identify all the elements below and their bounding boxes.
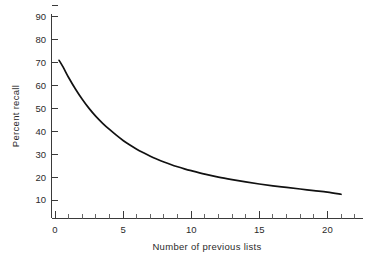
y-axis-title: Percent recall bbox=[10, 85, 21, 147]
y-tick-label-30: 30 bbox=[35, 149, 46, 160]
x-axis-tick-labels: 05101520 bbox=[52, 224, 332, 235]
y-axis-tick-labels: 102030405060708090 bbox=[35, 11, 46, 205]
x-tick-label-10: 10 bbox=[186, 224, 197, 235]
y-tick-label-40: 40 bbox=[35, 126, 46, 137]
x-tick-label-15: 15 bbox=[254, 224, 265, 235]
x-tick-label-5: 5 bbox=[120, 224, 125, 235]
y-tick-label-90: 90 bbox=[35, 11, 46, 22]
x-axis-title: Number of previous lists bbox=[152, 241, 261, 252]
y-tick-label-10: 10 bbox=[35, 194, 46, 205]
y-tick-label-60: 60 bbox=[35, 80, 46, 91]
x-axis-minor-ticks bbox=[69, 214, 355, 219]
y-tick-label-50: 50 bbox=[35, 103, 46, 114]
x-tick-label-0: 0 bbox=[52, 224, 57, 235]
y-tick-label-20: 20 bbox=[35, 172, 46, 183]
chart-plot-area: 102030405060708090 05101520 Number of pr… bbox=[0, 0, 374, 262]
y-tick-label-80: 80 bbox=[35, 34, 46, 45]
data-series-curve bbox=[59, 60, 341, 194]
x-tick-label-20: 20 bbox=[322, 224, 333, 235]
chart-figure: 102030405060708090 05101520 Number of pr… bbox=[0, 0, 374, 262]
y-tick-label-70: 70 bbox=[35, 57, 46, 68]
y-axis-ticks bbox=[52, 5, 58, 200]
